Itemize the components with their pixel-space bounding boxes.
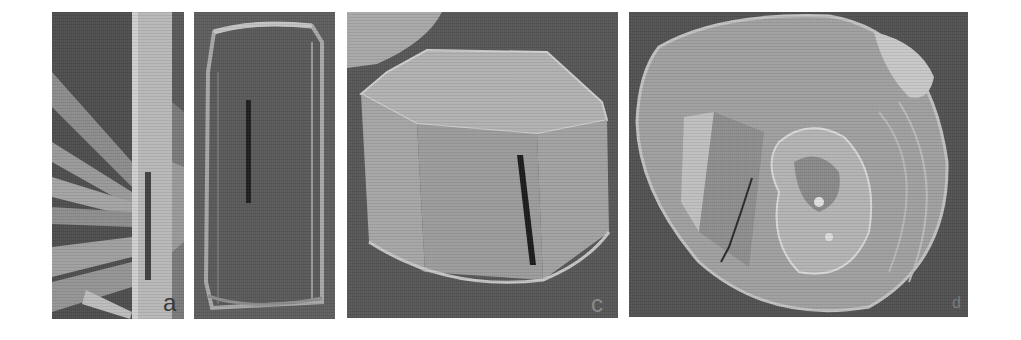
image-grain [347,12,618,318]
panel-label-c: c [591,292,603,316]
panel-label-d: d [952,295,961,311]
micrograph-panel-d: d [629,12,968,317]
micrograph-panel-b [194,12,335,319]
image-grain [629,12,968,317]
panel-label-a: a [163,291,176,315]
image-grain [194,12,335,319]
micrograph-panel-c: c [347,12,618,318]
micrograph-panel-a: a [52,12,184,319]
image-grain [52,12,184,319]
